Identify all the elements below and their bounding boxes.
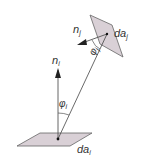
center-point-j — [106, 33, 108, 35]
label-da-j: daj — [114, 27, 128, 41]
center-point-i — [57, 138, 60, 141]
arrowhead-i-icon — [55, 68, 61, 78]
label-da-i: dai — [77, 143, 91, 156]
view-factor-diagram: ni nj φi φj dai daj — [0, 0, 145, 161]
label-phi-j: φj — [86, 44, 101, 57]
angle-arc-phi-i — [58, 113, 69, 115]
arrowhead-j-icon — [77, 39, 87, 45]
label-phi-i: φi — [59, 98, 68, 110]
label-n-i: ni — [52, 54, 60, 67]
label-n-j: nj — [73, 23, 81, 37]
